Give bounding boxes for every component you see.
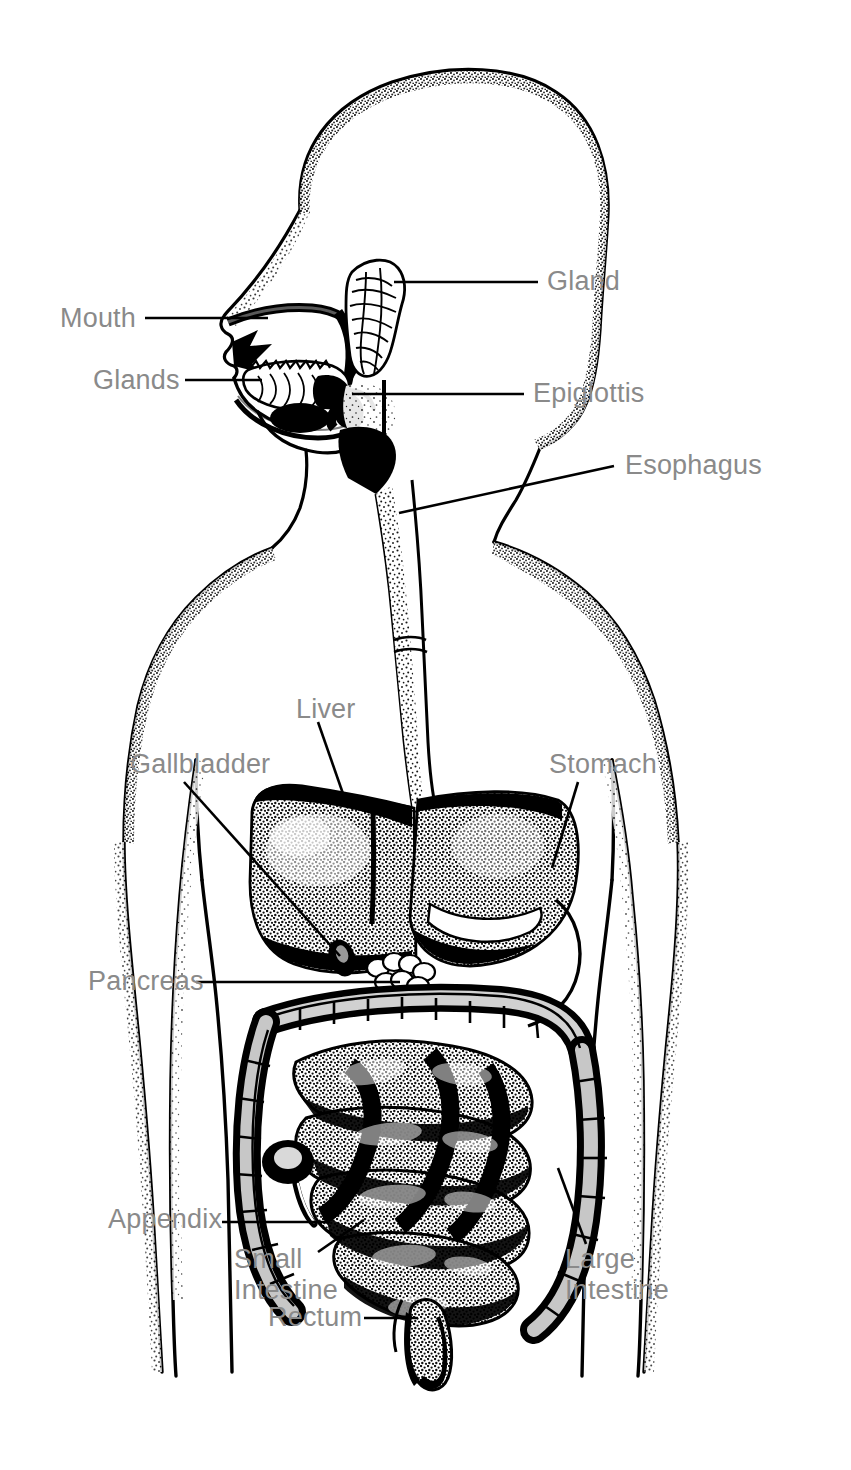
label-gallbladder: Gallbladder	[130, 749, 270, 780]
label-large-intestine: Large Intestine	[565, 1244, 669, 1306]
label-small-intestine: Small Intestine	[234, 1244, 338, 1306]
label-liver: Liver	[296, 694, 356, 725]
label-pancreas: Pancreas	[88, 966, 204, 997]
label-epiglottis: Epiglottis	[533, 378, 645, 409]
anatomy-illustration	[0, 0, 851, 1470]
label-rectum: Rectum	[268, 1302, 362, 1333]
label-gland: Gland	[547, 266, 620, 297]
label-esophagus: Esophagus	[625, 450, 762, 481]
diagram-canvas: Mouth Glands Gland Epiglottis Esophagus …	[0, 0, 851, 1470]
label-stomach: Stomach	[549, 749, 657, 780]
label-appendix: Appendix	[108, 1204, 222, 1235]
label-glands: Glands	[93, 365, 180, 396]
label-mouth: Mouth	[60, 303, 136, 334]
